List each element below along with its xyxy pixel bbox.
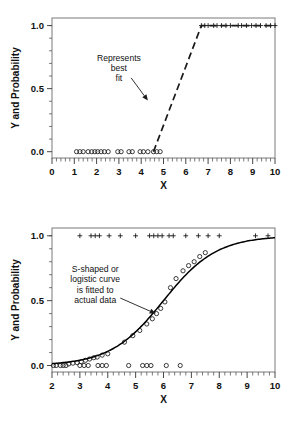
x-tick-label: 0 [49, 166, 54, 177]
data-point-circle [86, 363, 90, 367]
annotation-text: S-shaped orlogistic curveis fitted toact… [70, 264, 120, 305]
x-tick-label: 7 [189, 380, 194, 391]
series-observed-zero-outcomes [74, 150, 162, 154]
y-tick-label: 0.5 [31, 83, 45, 94]
annotation-arrow-head [142, 94, 148, 100]
annotation-line: is fitted to [77, 285, 114, 295]
annotation-line: S-shaped or [72, 264, 119, 274]
x-tick-label: 9 [250, 166, 255, 177]
data-point-circle [96, 363, 100, 367]
x-tick-label: 8 [228, 166, 233, 177]
annotation-line: actual data [74, 295, 116, 305]
data-point-circle [198, 254, 202, 258]
data-point-circle [154, 312, 158, 316]
annotation-represents-best-fit: Representsbestfit [97, 53, 148, 101]
annotation-line: logistic curve [70, 274, 120, 284]
x-tick-label: 1 [72, 166, 78, 177]
data-point-circle [127, 363, 131, 367]
data-point-circle [164, 363, 168, 367]
top-plot-group: 0.00.51.0012345678910XY and ProbabilityR… [10, 18, 280, 191]
series-observed-one-outcomes [77, 233, 270, 238]
x-tick-label: 10 [270, 166, 281, 177]
y-tick-label: 0.5 [31, 295, 45, 306]
data-point-circle [149, 363, 153, 367]
data-point-circle [146, 150, 150, 154]
data-point-circle [145, 363, 149, 367]
y-axis-title: Y and Probability [10, 259, 21, 341]
best-fit-dashed-line [153, 26, 275, 152]
y-axis-title: Y and Probability [10, 47, 21, 129]
x-tick-label: 4 [105, 380, 111, 391]
data-point-circle [168, 286, 172, 290]
x-tick-label: 7 [205, 166, 210, 177]
chart-panel-bottom: 0.00.51.02345678910XY and ProbabilityS-s… [0, 214, 292, 431]
top-chart-svg: 0.00.51.0012345678910XY and ProbabilityR… [0, 0, 292, 212]
annotation-s-shaped-logistic-curve: S-shaped orlogistic curveis fitted toact… [70, 264, 155, 314]
x-tick-label: 6 [183, 166, 188, 177]
x-tick-label: 10 [270, 380, 281, 391]
x-tick-label: 5 [161, 166, 167, 177]
annotation-line: best [111, 63, 128, 73]
plot-frame [52, 18, 275, 158]
y-tick-label: 1.0 [31, 230, 44, 241]
x-tick-label: 8 [217, 380, 222, 391]
data-point-circle [192, 260, 196, 264]
bottom-chart-svg: 0.00.51.02345678910XY and ProbabilityS-s… [0, 214, 292, 431]
y-tick-label: 0.0 [31, 146, 44, 157]
x-tick-label: 4 [139, 166, 145, 177]
chart-panel-top: 0.00.51.0012345678910XY and ProbabilityR… [0, 0, 292, 212]
x-tick-label: 3 [116, 166, 121, 177]
y-tick-label: 1.0 [31, 20, 44, 31]
data-point-circle [150, 317, 154, 321]
bottom-plot-group: 0.00.51.02345678910XY and ProbabilityS-s… [10, 228, 280, 405]
data-point-circle [186, 264, 190, 268]
data-point-circle [203, 251, 207, 255]
annotation-arrow-line [120, 298, 150, 311]
x-axis-title: X [160, 180, 167, 191]
data-point-circle [104, 363, 108, 367]
annotation-line: Represents [97, 53, 141, 63]
x-axis-title: X [160, 394, 167, 405]
y-tick-label: 0.0 [31, 360, 44, 371]
data-point-circle [174, 276, 178, 280]
x-tick-label: 6 [161, 380, 166, 391]
data-point-circle [181, 269, 185, 273]
x-tick-label: 9 [244, 380, 249, 391]
data-point-circle [140, 363, 144, 367]
annotation-arrow-line [131, 78, 144, 96]
data-point-circle [100, 363, 104, 367]
annotation-line: fit [116, 73, 123, 83]
x-tick-label: 2 [94, 166, 99, 177]
x-tick-label: 5 [133, 380, 139, 391]
x-tick-label: 3 [77, 380, 82, 391]
figure-container: 0.00.51.0012345678910XY and ProbabilityR… [0, 0, 292, 431]
data-point-circle [82, 363, 86, 367]
x-tick-label: 2 [49, 380, 54, 391]
annotation-text: Representsbestfit [97, 53, 141, 83]
data-point-circle [178, 363, 182, 367]
